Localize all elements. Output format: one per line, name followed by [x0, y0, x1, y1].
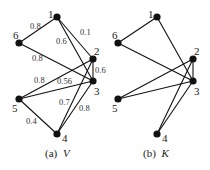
- node-k-4: [153, 130, 160, 137]
- node-v-3: [89, 77, 96, 84]
- node-label-k-3: 3: [194, 85, 200, 97]
- weight-v-1-6: 0.8: [30, 21, 41, 31]
- node-label-v-2: 2: [94, 45, 100, 57]
- graph-k: 1 2 3 4 5 6 (b) K: [112, 8, 200, 160]
- node-label-k-4: 4: [162, 132, 168, 144]
- weight-v-4-3: 0.8: [79, 103, 90, 113]
- edge-k-5-2: [118, 59, 193, 99]
- weight-v-5-2: 0.8: [34, 75, 45, 85]
- caption-v-var: V: [63, 147, 71, 159]
- node-label-v-4: 4: [62, 132, 68, 144]
- node-label-k-6: 6: [112, 29, 118, 41]
- caption-k-var: K: [161, 147, 170, 159]
- node-k-3: [189, 77, 196, 84]
- graph-v: 0.8 0.1 0.6 0.8 0.6 0.8 0.56 0.4 0.7 0.8…: [12, 8, 106, 160]
- caption-k-prefix: (b): [143, 147, 156, 160]
- node-label-k-5: 5: [112, 102, 118, 114]
- node-v-1: [53, 13, 60, 20]
- edge-k-4-2: [157, 59, 193, 134]
- weight-v-4-2: 0.7: [59, 97, 70, 107]
- node-label-k-1: 1: [148, 8, 154, 20]
- edge-k-4-3: [157, 81, 193, 134]
- caption-v-prefix: (a): [45, 147, 58, 160]
- node-label-k-2: 2: [194, 45, 200, 57]
- weight-v-5-4: 0.4: [26, 116, 37, 126]
- node-v-4: [53, 130, 60, 137]
- weight-v-5-3: 0.56: [57, 76, 72, 86]
- weight-v-1-2: 0.1: [80, 27, 91, 37]
- edge-v-5-2: [19, 59, 93, 99]
- edge-v-5-4: [19, 99, 57, 134]
- edge-v-5-3: [19, 81, 93, 99]
- weight-v-1-3: 0.6: [56, 36, 67, 46]
- node-label-v-3: 3: [94, 85, 100, 97]
- caption-k: (b) K: [143, 147, 170, 160]
- weight-v-2-3: 0.6: [95, 65, 106, 75]
- node-label-v-1: 1: [48, 8, 54, 20]
- node-k-1: [153, 13, 160, 20]
- node-label-v-6: 6: [13, 29, 19, 41]
- edge-k-1-6: [118, 17, 157, 43]
- caption-v: (a) V: [45, 147, 71, 160]
- weight-v-6-3: 0.8: [32, 53, 43, 63]
- node-label-v-5: 5: [12, 102, 18, 114]
- graph-figure: 0.8 0.1 0.6 0.8 0.6 0.8 0.56 0.4 0.7 0.8…: [0, 0, 210, 170]
